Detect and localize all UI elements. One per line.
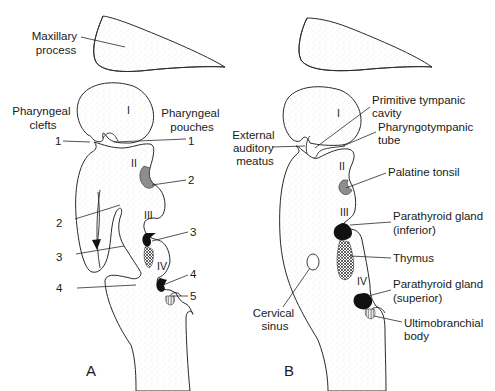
pouch-number-3: 3	[190, 226, 196, 238]
panel-b: I II III IV Primitive tympanic cavity Ph…	[232, 18, 486, 391]
cleft-number-2: 2	[56, 217, 62, 229]
cervical-sinus-shape	[307, 254, 319, 270]
arch-1-shape-b	[283, 87, 361, 146]
panel-a: Maxillary process Pharyngeal clefts Phar…	[12, 16, 225, 391]
label-ultimobranchial-body: Ultimobranchial body	[404, 317, 486, 342]
label-parathyroid-superior: Parathyroid gland (superior)	[393, 278, 486, 304]
cleft-number-3: 3	[56, 251, 62, 263]
panel-label-a: A	[86, 362, 96, 379]
label-external-auditory-meatus: External auditory meatus	[232, 129, 277, 167]
arch-label-iv: IV	[157, 260, 167, 272]
pharyngeal-arches-diagram: Maxillary process Pharyngeal clefts Phar…	[0, 0, 495, 391]
arch-2-body-shape-b	[280, 146, 386, 391]
arch-label-ii: II	[131, 157, 137, 169]
label-pharyngeal-pouches: Pharyngeal pouches	[161, 107, 222, 133]
arch-label-iv-b: IV	[357, 275, 367, 287]
pouch-number-5: 5	[190, 290, 196, 302]
cleft-number-4: 4	[56, 282, 63, 294]
maxillary-process-shape-b	[299, 18, 432, 71]
arch-label-ii-b: II	[339, 160, 345, 172]
pouch-number-1: 1	[188, 135, 194, 147]
pouch-number-2: 2	[188, 174, 194, 186]
panel-label-b: B	[284, 362, 294, 379]
pouch-5-a	[166, 296, 175, 305]
label-palatine-tonsil: Palatine tonsil	[388, 166, 460, 178]
maxillary-process-shape	[94, 16, 225, 71]
label-cervical-sinus: Cervical sinus	[253, 307, 298, 332]
pouch-number-4: 4	[190, 268, 197, 280]
label-pharyngotympanic-tube: Pharyngotympanic tube	[378, 121, 476, 146]
label-pharyngeal-clefts: Pharyngeal clefts	[12, 105, 73, 131]
arch-label-i-b: I	[337, 107, 340, 119]
arch-label-i: I	[127, 104, 130, 116]
arch-label-iii-b: III	[340, 206, 349, 218]
label-primitive-tympanic-cavity: Primitive tympanic cavity	[372, 94, 469, 119]
label-maxillary-process: Maxillary process	[32, 30, 81, 56]
label-thymus: Thymus	[393, 252, 434, 264]
arch-1-shape	[77, 83, 153, 143]
arch-label-iii: III	[144, 209, 153, 221]
cleft-number-1: 1	[55, 135, 61, 147]
arch-2-body-shape	[76, 142, 193, 391]
label-parathyroid-inferior: Parathyroid gland (inferior)	[393, 210, 486, 236]
